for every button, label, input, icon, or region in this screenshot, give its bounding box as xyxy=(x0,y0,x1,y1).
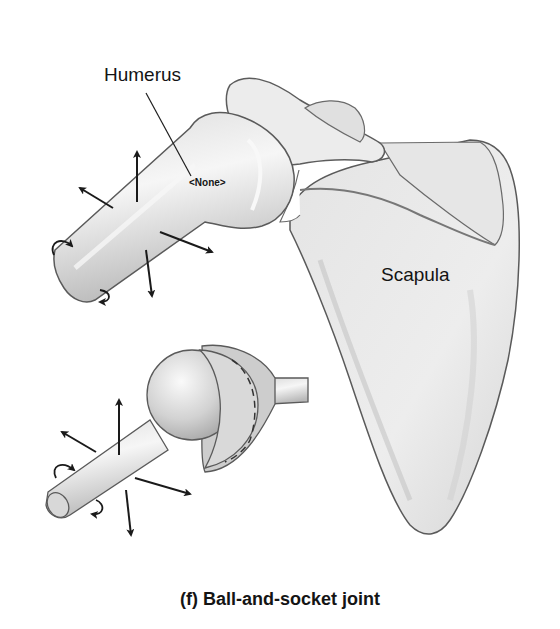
scapula-label: Scapula xyxy=(381,264,450,286)
humerus-bone xyxy=(54,113,294,302)
ball-socket-model xyxy=(43,345,308,521)
diagram-canvas: Humerus <None> Scapula (f) Ball-and-sock… xyxy=(0,0,560,629)
diagram-svg xyxy=(0,0,560,629)
placeholder-label: <None> xyxy=(189,177,226,188)
scapula-bone xyxy=(280,140,519,534)
figure-caption: (f) Ball-and-socket joint xyxy=(0,589,560,610)
humerus-label: Humerus xyxy=(104,64,181,86)
